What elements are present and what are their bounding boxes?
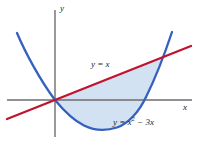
parabola-label-suffix: − 3x: [135, 117, 154, 127]
y-axis-label: y: [60, 4, 64, 13]
line-equation-label: y = x: [91, 60, 110, 69]
parabola-label-prefix: y = x: [113, 117, 132, 127]
x-axis-label: x: [183, 103, 187, 112]
figure-container: y x y = x y = x2 − 3x: [0, 0, 198, 141]
graph-canvas: [0, 0, 198, 141]
parabola-equation-label: y = x2 − 3x: [113, 116, 154, 127]
